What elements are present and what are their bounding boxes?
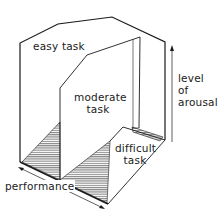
easy-task-panel-outline [20,17,165,162]
difficult-task-performance-shading [132,127,163,141]
moderate-task-label-line2: task [74,103,122,115]
arousal-label-line2: of [178,84,189,96]
arousal-axis-arrow [170,45,174,142]
difficult-task-label-line2: task [115,154,155,166]
difficult-task-label-line1: difficult [115,142,155,154]
arousal-label-line1: level [178,72,204,84]
arousal-label-line3: arousal [178,96,218,108]
easy-task-label: easy task [33,40,85,52]
performance-label: performance [4,180,75,192]
moderate-task-label-line1: moderate [74,91,114,103]
